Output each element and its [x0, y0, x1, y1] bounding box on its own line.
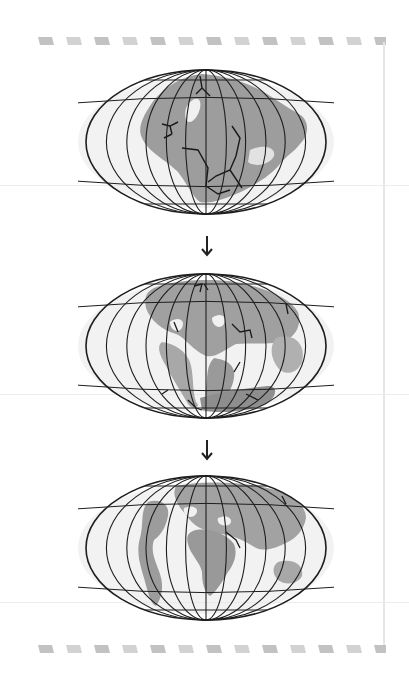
- border-dash: [122, 37, 138, 45]
- down-arrow-icon: [199, 234, 215, 258]
- border-dash: [346, 37, 362, 45]
- globe-breakup: [76, 270, 336, 422]
- border-dash: [178, 645, 194, 653]
- border-dash: [94, 645, 110, 653]
- border-dash: [150, 645, 166, 653]
- right-border: [383, 42, 385, 648]
- border-dash: [262, 645, 278, 653]
- border-dash: [206, 645, 222, 653]
- bottom-dashed-border: [36, 644, 386, 654]
- border-dash: [206, 37, 222, 45]
- border-dash: [374, 645, 386, 653]
- border-dash: [234, 37, 250, 45]
- border-dash: [290, 37, 306, 45]
- border-dash: [346, 645, 362, 653]
- globe-pangaea: [76, 66, 336, 218]
- border-dash: [122, 645, 138, 653]
- border-dash: [150, 37, 166, 45]
- border-dash: [66, 37, 82, 45]
- globe-present-day: [76, 472, 336, 624]
- border-dash: [318, 37, 334, 45]
- down-arrow-icon: [199, 438, 215, 462]
- top-dashed-border: [36, 36, 386, 46]
- border-dash: [94, 37, 110, 45]
- border-dash: [38, 645, 54, 653]
- border-dash: [178, 37, 194, 45]
- border-dash: [318, 645, 334, 653]
- border-dash: [38, 37, 54, 45]
- border-dash: [234, 645, 250, 653]
- border-dash: [66, 645, 82, 653]
- border-dash: [290, 645, 306, 653]
- border-dash: [262, 37, 278, 45]
